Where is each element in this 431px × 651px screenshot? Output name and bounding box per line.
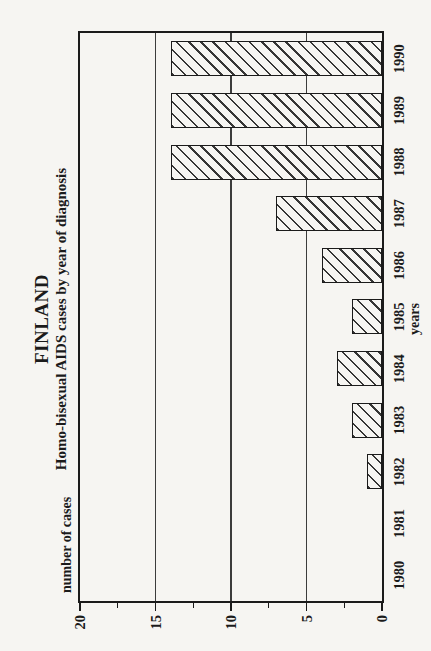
bar-1987: [276, 196, 382, 231]
x-tick-label-1984: 1984: [391, 343, 408, 395]
chart-title: FINLAND: [31, 35, 53, 603]
x-tick-label-1990: 1990: [391, 33, 408, 85]
bar-1989: [171, 93, 382, 128]
y-axis-title: number of cases: [59, 497, 75, 593]
x-tick-label-1981: 1981: [391, 498, 408, 550]
bar-1986: [322, 248, 382, 283]
y-major-tick-5: [306, 603, 308, 611]
x-tick-label-1987: 1987: [391, 188, 408, 240]
y-tick-label-5: 5: [298, 615, 316, 649]
x-tick-label-1986: 1986: [391, 240, 408, 292]
bar-1988: [171, 145, 382, 180]
x-tick-label-1989: 1989: [391, 85, 408, 137]
y-major-tick-15: [155, 603, 157, 611]
y-tick-label-20: 20: [71, 615, 89, 649]
gridline-15: [155, 33, 156, 601]
x-tick-label-1983: 1983: [391, 394, 408, 446]
scanned-chart-page: FINLAND Homo-bisexual AIDS cases by year…: [0, 0, 431, 651]
y-tick-label-0: 0: [373, 615, 391, 649]
x-tick-label-1985: 1985: [391, 291, 408, 343]
y-minor-tick-17.5: [117, 603, 118, 608]
bar-1984: [337, 351, 382, 386]
x-axis-title: years: [407, 279, 423, 359]
y-minor-tick-7.5: [268, 603, 269, 608]
chart-canvas: FINLAND Homo-bisexual AIDS cases by year…: [0, 0, 431, 651]
bar-1985: [352, 300, 382, 335]
bar-1982: [367, 454, 382, 489]
y-minor-tick-2.5: [344, 603, 345, 608]
y-tick-label-15: 15: [147, 615, 165, 649]
y-major-tick-10: [230, 603, 232, 611]
y-tick-label-10: 10: [222, 615, 240, 649]
y-major-tick-0: [381, 603, 383, 611]
bar-1983: [352, 403, 382, 438]
x-tick-label-1980: 1980: [391, 549, 408, 601]
plot-area: 0510152019801981198219831984198519861987…: [78, 31, 384, 603]
bar-1990: [171, 41, 382, 76]
x-tick-label-1988: 1988: [391, 136, 408, 188]
y-minor-tick-12.5: [193, 603, 194, 608]
y-major-tick-20: [79, 603, 81, 611]
x-tick-label-1982: 1982: [391, 446, 408, 498]
